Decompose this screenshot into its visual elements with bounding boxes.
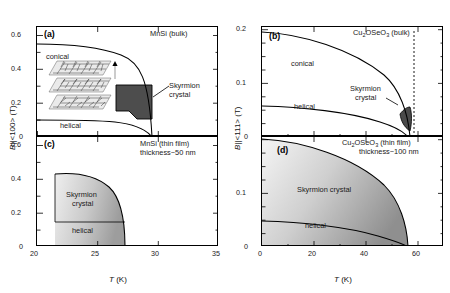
- panel-a-ytick-0.4: 0.4: [11, 64, 21, 73]
- panel-a-inset-illustration: [49, 61, 118, 109]
- panel-b-title-suffix: (bulk): [391, 28, 409, 37]
- panel-d-xtick-40: 40: [360, 249, 368, 258]
- panel-c-label-skyrmion-line2: crystal: [72, 200, 93, 209]
- panel-d-letter: (d): [277, 145, 288, 155]
- panel-b-ytick-0.2: 0.2: [236, 24, 246, 33]
- panel-b-letter: (b): [269, 31, 280, 41]
- panel-a-label-helical: helical: [60, 122, 81, 131]
- panel-d-label-helical: helical: [305, 222, 326, 231]
- panel-a-skyrmion-leader-line: [152, 84, 170, 100]
- panel-c-ytick-0.2: 0.2: [11, 208, 21, 217]
- panel-b-plot-area: [261, 26, 443, 136]
- panel-d-ytick-0.1: 0.1: [236, 188, 246, 197]
- panel-b-skyrmion-leader-line: [385, 96, 399, 108]
- panel-b-conical-boundary: [262, 32, 410, 136]
- panel-a-label-skyrmion-line2: crystal: [169, 91, 190, 100]
- panel-d-formula: Cu2OSeO3: [342, 138, 378, 147]
- panel-c-ytick-0: 0: [19, 242, 23, 251]
- panel-c-subtitle: thickness~50 nm: [140, 149, 196, 158]
- panel-d-label-skyrmion: Skyrmion crystal: [297, 186, 351, 195]
- panel-c-label-helical: helical: [72, 227, 93, 236]
- panel-b-ytick-0.1: 0.1: [236, 78, 246, 87]
- panel-a-letter: (a): [44, 29, 55, 39]
- panel-b-label-helical: helical: [294, 103, 315, 112]
- panel-a-ytick-0.6: 0.6: [11, 30, 21, 39]
- figure-root: B||<100> (T) B||<111> (T) T T (K)(K) T T…: [0, 0, 450, 293]
- panel-b-ytick-0: 0: [244, 132, 248, 141]
- y-axis-unit-right: (T): [233, 107, 242, 117]
- panel-a-helical-boundary: [37, 120, 152, 136]
- panel-a-label-conical: conical: [46, 53, 69, 62]
- y-axis-title-right: B||<111> (T): [233, 107, 242, 150]
- panel-b-yticks: [262, 30, 443, 136]
- x-axis-title-right: T T (K)(K): [334, 275, 352, 284]
- panel-c-xtick-20: 20: [30, 249, 38, 258]
- y-axis-direction-right: ||<111>: [233, 119, 242, 145]
- panel-d-xtick-60: 60: [412, 249, 420, 258]
- x-axis-title-left: T T (K)(K): [109, 275, 127, 284]
- panel-c-ytick-0.4: 0.4: [11, 174, 21, 183]
- panel-d-xtick-20: 20: [308, 249, 316, 258]
- panel-a-title: MnSi (bulk): [150, 30, 187, 39]
- panel-b-title: Cu2OSeO3 (bulk): [353, 29, 410, 40]
- panel-b-formula: Cu2OSeO3: [353, 28, 389, 37]
- panel-b-label-skyrmion-line2: crystal: [355, 94, 376, 103]
- panel-b-xticks: [288, 27, 418, 136]
- panel-d-subtitle: thickness~100 nm: [359, 148, 419, 157]
- y-axis-symbol-right: B: [233, 145, 242, 150]
- panel-b-skyrmion-region: [400, 107, 412, 131]
- panel-c-letter: (c): [44, 139, 55, 149]
- panel-b-svg: [262, 27, 443, 136]
- panel-b-helical-boundary: [262, 106, 408, 136]
- panel-d-ytick-0: 0: [244, 242, 248, 251]
- panel-a-ytick-0.2: 0.2: [11, 98, 21, 107]
- panel-c-xtick-30: 30: [151, 249, 159, 258]
- panel-d-title-suffix: (thin film): [380, 138, 410, 147]
- panel-c-xtick-25: 25: [91, 249, 99, 258]
- panel-a-inset-hq-arrow: [112, 61, 117, 79]
- panel-d-xtick-0: 0: [258, 249, 262, 258]
- panel-c-xtick-35: 35: [212, 249, 220, 258]
- panel-b-label-conical: conical: [291, 60, 314, 69]
- panel-c-ytick-0.6: 0.6: [11, 140, 21, 149]
